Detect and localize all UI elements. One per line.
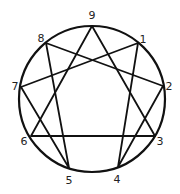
enneagram-diagram: 912345678: [0, 0, 180, 194]
point-label-3: 3: [157, 135, 164, 148]
outer-circle: [19, 26, 165, 172]
triangle-9-3-6: [31, 26, 155, 136]
point-label-5: 5: [66, 174, 73, 187]
enneagram-svg: 912345678: [0, 0, 180, 194]
point-label-8: 8: [38, 32, 45, 45]
hexad-1-4-2-8-5-7: [21, 43, 163, 168]
point-label-6: 6: [21, 135, 28, 148]
point-label-4: 4: [114, 173, 121, 186]
point-label-9: 9: [89, 9, 96, 22]
point-label-7: 7: [12, 80, 19, 93]
point-label-2: 2: [166, 80, 173, 93]
point-label-1: 1: [140, 33, 147, 46]
